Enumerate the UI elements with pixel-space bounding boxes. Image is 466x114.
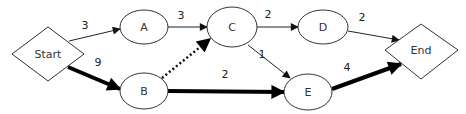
node-label-c: C (228, 21, 236, 34)
node-c: C (207, 7, 257, 47)
edge-e-end: 4 (332, 61, 401, 90)
edge-weight-start-a: 3 (82, 19, 89, 32)
edge-weight-a-c: 3 (178, 9, 185, 22)
node-e: E (284, 74, 332, 110)
node-a: A (120, 10, 168, 44)
edge-c-d: 2 (257, 8, 298, 28)
edge-weight-c-e: 1 (259, 48, 266, 61)
edge-weight-e-end: 4 (344, 61, 351, 74)
edge-b-c-dotted (162, 39, 210, 78)
node-start: Start (12, 27, 84, 81)
edge-weight-b-e: 2 (222, 68, 229, 81)
node-label-a: A (140, 21, 148, 34)
node-label-d: D (319, 21, 327, 34)
edge-weight-start-b: 9 (95, 56, 102, 69)
edge-a-c: 3 (168, 9, 207, 28)
node-label-e: E (305, 86, 312, 99)
node-label-start: Start (35, 48, 63, 61)
edge-b-e: 2 (168, 68, 284, 93)
node-label-b: B (140, 85, 148, 98)
node-label-end: End (411, 44, 432, 57)
edge-weight-c-d: 2 (265, 8, 272, 21)
edge-start-a: 3 (69, 19, 120, 42)
node-end: End (385, 24, 458, 79)
node-d: D (298, 10, 348, 44)
network-diagram: 3 9 3 2 2 1 2 4 Start A B (0, 0, 466, 114)
edge-weight-d-end: 2 (359, 11, 366, 24)
node-b: B (120, 73, 168, 109)
edge-c-e: 1 (248, 45, 290, 78)
edge-d-end: 2 (348, 11, 399, 41)
